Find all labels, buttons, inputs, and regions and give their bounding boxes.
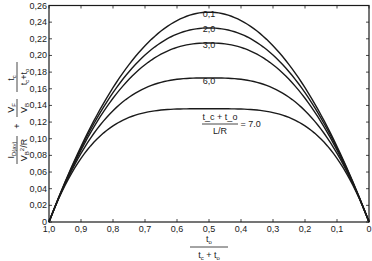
x-axis-label: to tc + to (190, 234, 228, 261)
x-tick-label: 0,3 (267, 224, 280, 234)
y-tick-label: 0,24 (29, 17, 47, 27)
x-tick-label: 0,4 (235, 224, 248, 234)
svg-text:tc+to: tc+to (19, 68, 30, 85)
y-tick-label: 0,08 (29, 150, 47, 160)
svg-text:+: + (12, 123, 22, 128)
svg-text:to: to (206, 234, 213, 245)
curve-label: 3,0 (203, 40, 216, 50)
y-axis-label: ID(av) VB2/R + VF VB tc tc+to (6, 62, 30, 164)
curve-7-0 (49, 109, 369, 222)
svg-text:ID(av): ID(av) (6, 141, 17, 158)
curve-label: 0,1 (203, 9, 216, 19)
y-tick-label: 0,26 (29, 1, 47, 11)
x-tick-label: 0,9 (75, 224, 88, 234)
parameter-denominator: L/R (213, 126, 228, 136)
x-tick-label: 0,2 (299, 224, 312, 234)
svg-text:tc: tc (6, 75, 17, 81)
curve-2-0 (49, 28, 369, 222)
parameter-label: t_c + t_o L/R (202, 112, 238, 136)
y-tick-label: 0,16 (29, 84, 47, 94)
x-tick-label: 0,6 (171, 224, 184, 234)
y-tick-label: 0,04 (29, 184, 47, 194)
x-tick-label: 0,8 (107, 224, 120, 234)
curve-6-0 (49, 78, 369, 222)
parameter-numerator: t_c + t_o (203, 112, 238, 122)
x-tick-label: 0,7 (139, 224, 152, 234)
svg-text:VB: VB (19, 103, 30, 113)
y-tick-label: 0,10 (29, 134, 47, 144)
curve-3-0 (49, 43, 369, 222)
y-tick-label: 0,22 (29, 34, 47, 44)
y-tick-label: 0,12 (29, 117, 47, 127)
curve-label: 6,0 (203, 76, 216, 86)
curve-label: 2,0 (203, 24, 216, 34)
svg-text:tc + to: tc + to (198, 250, 220, 261)
x-tick-label: 0,5 (203, 224, 216, 234)
y-tick-label: 0,20 (29, 50, 47, 60)
curve-label: = 7.0 (240, 119, 260, 129)
y-tick-label: 0,14 (29, 100, 47, 110)
y-tick-label: 0,02 (29, 200, 47, 210)
svg-text:VF: VF (6, 103, 17, 113)
y-tick-label: 0,06 (29, 167, 47, 177)
x-tick-label: 0,1 (331, 224, 344, 234)
y-tick-label: 0,18 (29, 67, 47, 77)
x-tick-label: 0 (366, 224, 371, 234)
chart: 00,020,040,060,080,100,120,140,160,180,2… (0, 0, 372, 261)
x-tick-label: 1,0 (43, 224, 56, 234)
svg-text:VB2/R: VB2/R (19, 138, 30, 161)
